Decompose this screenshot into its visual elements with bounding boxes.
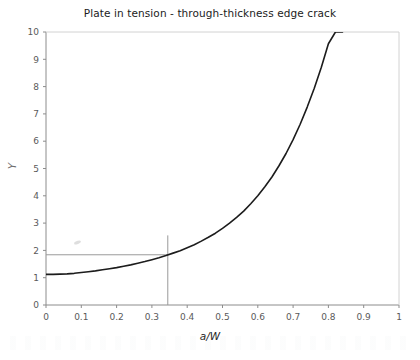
construction-lines [46, 235, 168, 305]
chart-figure: Plate in tension - through-thickness edg… [0, 0, 420, 360]
x-tick-label: 0.4 [180, 312, 195, 322]
x-tick-label: 0.7 [286, 312, 300, 322]
curve-path [46, 32, 343, 274]
x-tick-label: 0.1 [74, 312, 88, 322]
y-axis-ticks: 109876543210 [28, 27, 46, 310]
x-tick-label: 0.5 [215, 312, 229, 322]
x-tick-label: 0.9 [357, 312, 372, 322]
y-tick-label: 0 [33, 300, 39, 310]
y-tick-label: 2 [33, 246, 39, 256]
y-tick-label: 8 [33, 82, 39, 92]
x-tick-label: 0.6 [251, 312, 266, 322]
y-tick-label: 4 [33, 191, 39, 201]
x-tick-label: 0.8 [321, 312, 336, 322]
y-tick-label: 3 [33, 218, 39, 228]
scan-bleedthrough [10, 336, 410, 350]
x-axis-ticks: 00.10.20.30.40.50.60.70.80.91 [43, 305, 402, 322]
y-tick-label: 5 [33, 164, 39, 174]
y-tick-label: 10 [28, 27, 40, 37]
y-tick-label: 6 [33, 136, 39, 146]
plot-frame [46, 32, 399, 305]
plot-canvas: 109876543210 00.10.20.30.40.50.60.70.80.… [0, 0, 420, 360]
x-tick-label: 1 [396, 312, 402, 322]
x-tick-label: 0 [43, 312, 49, 322]
x-tick-label: 0.2 [109, 312, 123, 322]
y-tick-label: 1 [33, 273, 39, 283]
data-curve [46, 32, 343, 274]
x-tick-label: 0.3 [145, 312, 159, 322]
y-tick-label: 7 [33, 109, 39, 119]
y-tick-label: 9 [33, 55, 39, 65]
